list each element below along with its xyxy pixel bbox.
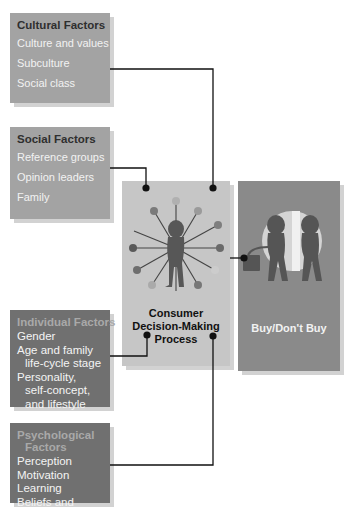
buy-decision-label: Buy/Don't Buy (238, 322, 340, 334)
cultural-factors-title: Cultural Factors (17, 19, 103, 31)
factor-item: Age and family (17, 344, 103, 358)
factor-item: Personality, (17, 371, 103, 385)
factor-item: Motivation (17, 469, 103, 483)
title-line: Psychological (17, 429, 103, 441)
factor-item: life-cycle stage (17, 357, 103, 371)
factor-item: Beliefs and (17, 496, 103, 509)
title-line: Factors (17, 441, 103, 453)
factor-item: Opinion leaders (17, 171, 103, 184)
decision-process-box: Consumer Decision-Making Process (122, 181, 230, 366)
social-factors-box: Social Factors Reference groups Opinion … (10, 127, 110, 219)
factor-item: and lifestyle (17, 398, 103, 412)
factor-item: Perception (17, 455, 103, 469)
factor-item: Gender (17, 330, 103, 344)
consumer-hub-icon (122, 181, 230, 301)
factor-item: Reference groups (17, 151, 103, 164)
factor-item: self-concept, (17, 384, 103, 398)
factor-item: Family (17, 191, 103, 204)
buy-decision-box: Buy/Don't Buy (238, 181, 340, 371)
factor-item: Culture and values (17, 37, 103, 50)
shoppers-silhouette-icon (238, 181, 340, 311)
psychological-factors-box: Psychological Factors Perception Motivat… (10, 423, 110, 503)
factor-item: Subculture (17, 57, 103, 70)
label-line: Process (122, 333, 230, 346)
label-line: Consumer (122, 307, 230, 320)
factor-item: Learning (17, 482, 103, 496)
individual-factors-box: Individual Factors Gender Age and family… (10, 310, 110, 407)
decision-process-label: Consumer Decision-Making Process (122, 307, 230, 346)
social-factors-title: Social Factors (17, 133, 103, 145)
factor-item: Social class (17, 77, 103, 90)
label-line: Decision-Making (122, 320, 230, 333)
individual-factors-title: Individual Factors (17, 316, 103, 328)
psychological-factors-title: Psychological Factors (17, 429, 103, 453)
cultural-factors-box: Cultural Factors Culture and values Subc… (10, 13, 110, 103)
